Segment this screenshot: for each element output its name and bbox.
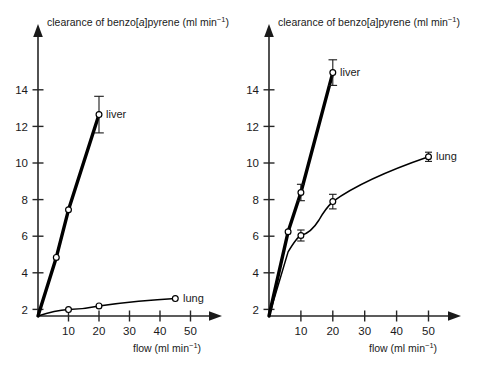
figure-container: 2 4 6 8 10 12 14 10 20 30 40 50 <box>0 0 479 365</box>
axes-right <box>264 24 461 321</box>
x-tick-labels-right: 10 20 30 40 50 <box>295 325 435 337</box>
x-tick-label: 10 <box>295 325 308 337</box>
data-point <box>330 199 336 205</box>
series-line-lung-left <box>38 299 175 316</box>
x-tick-label: 40 <box>390 325 403 337</box>
x-tick-label: 30 <box>358 325 371 337</box>
y-tick-label: 4 <box>22 267 29 279</box>
chart-panel-left: 2 4 6 8 10 12 14 10 20 30 40 50 <box>0 0 239 365</box>
data-point <box>172 296 178 302</box>
y-tick-label: 8 <box>253 194 259 206</box>
y-axis-title-left: clearance of benzo[a]pyrene (ml min−1) <box>47 15 229 28</box>
y-tick-labels-left: 2 4 6 8 10 12 14 <box>15 84 28 316</box>
data-point <box>298 233 304 239</box>
series-label-lung-left: lung <box>183 292 204 304</box>
y-axis-arrow-icon <box>33 24 43 37</box>
x-tick-labels-left: 10 20 30 40 50 <box>62 325 197 337</box>
data-point <box>96 112 102 118</box>
y-tick-label: 10 <box>15 157 28 169</box>
y-tick-label: 12 <box>15 121 28 133</box>
y-tick-label: 6 <box>22 230 28 242</box>
data-point <box>66 307 72 313</box>
x-tick-label: 50 <box>422 325 435 337</box>
series-markers-lung-left <box>66 296 179 313</box>
axes-left <box>33 24 222 321</box>
y-tick-label: 4 <box>253 267 260 279</box>
y-tick-label: 2 <box>253 304 259 316</box>
data-point <box>53 255 59 261</box>
chart-svg-right: 2 4 6 8 10 12 14 10 20 30 40 50 <box>239 0 479 365</box>
y-tick-label: 14 <box>246 84 259 96</box>
series-label-liver-left: liver <box>106 108 127 120</box>
series-markers-lung-right <box>298 154 431 239</box>
x-tick-label: 20 <box>93 325 106 337</box>
data-point <box>426 154 432 160</box>
data-point <box>330 70 336 76</box>
series-line-liver-left <box>38 115 99 316</box>
series-label-lung-right: lung <box>436 150 457 162</box>
y-axis-arrow-icon <box>264 24 274 37</box>
y-tick-label: 10 <box>246 157 259 169</box>
x-axis-title-left: flow (ml min−1) <box>133 341 201 354</box>
y-tick-label: 8 <box>22 194 28 206</box>
x-tick-label: 40 <box>154 325 167 337</box>
chart-svg-left: 2 4 6 8 10 12 14 10 20 30 40 50 <box>0 0 239 365</box>
y-tick-label: 12 <box>246 121 259 133</box>
data-point <box>298 190 304 196</box>
data-point <box>285 229 291 235</box>
y-axis-title-right: clearance of benzo[a]pyrene (ml min−1) <box>278 15 460 28</box>
chart-panel-right: 2 4 6 8 10 12 14 10 20 30 40 50 <box>239 0 479 365</box>
x-tick-label: 50 <box>184 325 197 337</box>
y-tick-label: 6 <box>253 230 259 242</box>
x-axis-arrow-icon <box>448 311 461 321</box>
x-axis-title-right: flow (ml min−1) <box>369 341 437 354</box>
y-tick-label: 2 <box>22 304 28 316</box>
x-tick-label: 10 <box>62 325 75 337</box>
series-line-lung-right <box>269 157 429 316</box>
x-tick-label: 20 <box>326 325 339 337</box>
data-point <box>96 303 102 309</box>
x-tick-label: 30 <box>123 325 136 337</box>
y-tick-label: 14 <box>15 84 28 96</box>
x-axis-arrow-icon <box>209 311 222 321</box>
data-point <box>66 207 72 213</box>
series-label-liver-right: liver <box>340 66 361 78</box>
y-tick-labels-right: 2 4 6 8 10 12 14 <box>246 84 259 316</box>
